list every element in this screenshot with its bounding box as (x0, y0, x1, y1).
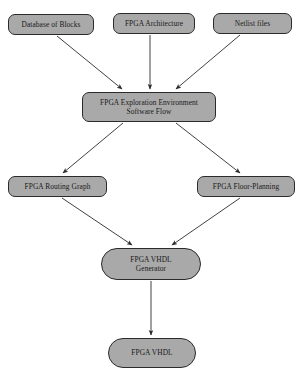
node-label: FPGA Architecture (125, 19, 183, 28)
edge-netlist-to-core (176, 35, 240, 89)
node-label: FPGA Exploration Environment Software Fl… (100, 98, 198, 117)
node-label: Netlist files (235, 19, 270, 28)
flowchart-diagram: Database of Blocks FPGA Architecture Net… (0, 0, 304, 382)
edge-core-to-floorplan (176, 123, 240, 173)
node-fpga-floor-planning[interactable]: FPGA Floor-Planning (197, 176, 295, 197)
node-fpga-vhdl-generator[interactable]: FPGA VHDL Generator (101, 248, 201, 280)
edge-routing-to-gen (62, 198, 132, 245)
edge-core-to-routing (63, 123, 123, 173)
node-label: Database of Blocks (22, 20, 81, 29)
node-label: FPGA Floor-Planning (213, 182, 279, 191)
node-label: FPGA VHDL (131, 348, 172, 357)
node-label: FPGA Routing Graph (25, 182, 91, 191)
node-fpga-architecture[interactable]: FPGA Architecture (113, 13, 195, 34)
node-netlist-files[interactable]: Netlist files (213, 13, 292, 34)
edge-floorplan-to-gen (172, 198, 240, 245)
node-database-of-blocks[interactable]: Database of Blocks (8, 14, 94, 35)
node-label: FPGA VHDL Generator (130, 255, 171, 274)
node-fpga-exploration-environment[interactable]: FPGA Exploration Environment Software Fl… (82, 92, 216, 122)
node-fpga-routing-graph[interactable]: FPGA Routing Graph (8, 176, 107, 197)
edge-db-to-core (57, 36, 122, 89)
node-fpga-vhdl[interactable]: FPGA VHDL (108, 338, 196, 368)
